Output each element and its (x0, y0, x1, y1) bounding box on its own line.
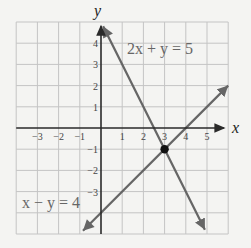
series-line-2 (83, 86, 228, 231)
x-tick-label: 1 (120, 131, 125, 142)
x-tick-label: −3 (32, 131, 43, 142)
y-tick-label: −3 (87, 187, 98, 198)
y-axis-label: y (92, 2, 102, 20)
graph: −3−2−1123454321−1−2−3 x y 2x + y = 5 x −… (0, 0, 251, 248)
y-tick-label: 4 (93, 38, 98, 49)
equation-label-2: x − y = 4 (22, 194, 80, 212)
y-tick-label: 2 (93, 81, 98, 92)
y-tick-label: 3 (93, 59, 98, 70)
x-tick-label: 2 (141, 131, 146, 142)
y-tick-label: −2 (87, 165, 98, 176)
equation-label-1: 2x + y = 5 (127, 40, 193, 58)
x-tick-label: 5 (205, 131, 210, 142)
x-tick-label: −2 (53, 131, 64, 142)
y-tick-label: −1 (87, 144, 98, 155)
x-tick-label: 4 (183, 131, 188, 142)
x-tick-label: 3 (162, 131, 167, 142)
y-tick-label: 1 (93, 102, 98, 113)
x-axis-label: x (231, 119, 239, 136)
x-tick-label: −1 (74, 131, 85, 142)
intersection-point (160, 145, 168, 153)
